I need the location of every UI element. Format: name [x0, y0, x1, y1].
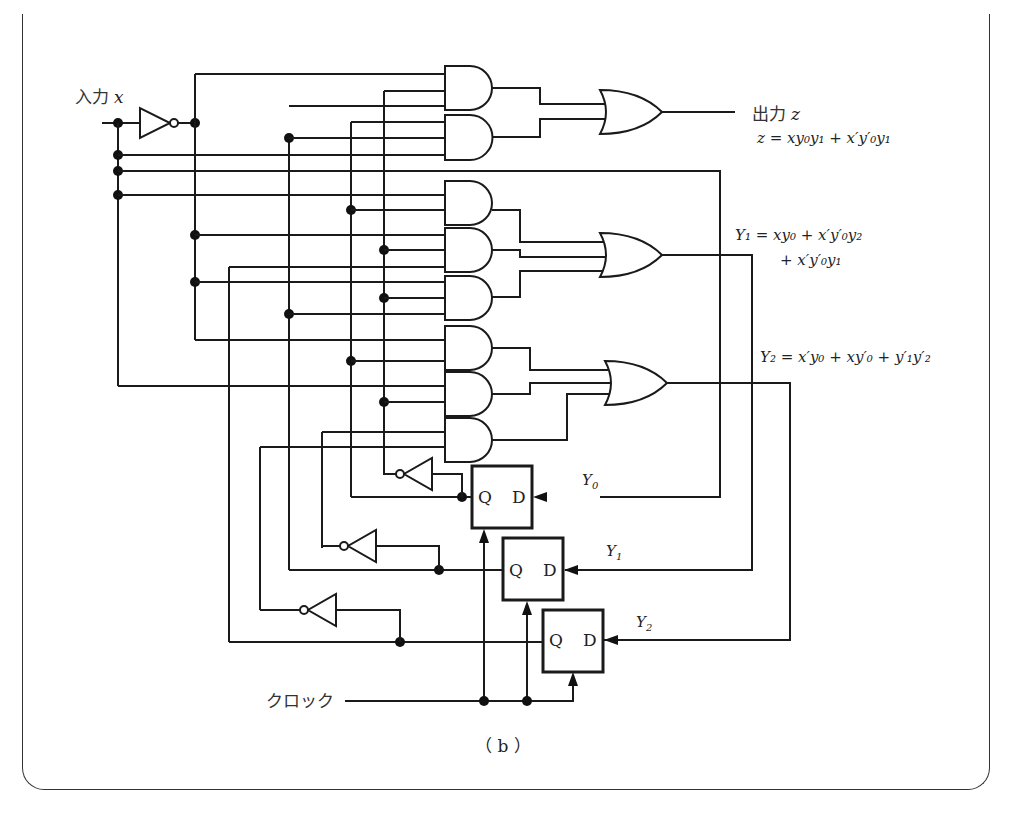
and-gate-y1-a [118, 181, 492, 225]
svg-text:Q: Q [549, 630, 563, 650]
svg-text:D: D [512, 487, 526, 507]
equation-y1-line1: Y₁ = xy₀ + x′y′₀y₂ [735, 226, 862, 244]
output-label: 出力 [752, 104, 786, 124]
and-gate-z1 [195, 66, 492, 110]
or-gate-z [600, 90, 662, 134]
and-gate-y2-c [260, 418, 492, 462]
and-gate-y2-a [195, 326, 492, 370]
or-gate-y1 [600, 233, 662, 277]
d-flipflop-y0: Q D Y0 [472, 466, 599, 528]
equation-y2: Y₂ = x′y₀ + xy′₀ + y′₁y′₂ [760, 348, 931, 366]
input-label: 入力 [75, 87, 109, 107]
equation-y1-line2: + x′y′₀y₁ [780, 251, 842, 269]
svg-text:D: D [583, 630, 597, 650]
input-var: x [114, 87, 124, 107]
input-x [102, 108, 200, 138]
figure-caption: （ b ） [475, 736, 531, 756]
svg-text:Y0: Y0 [582, 471, 599, 491]
equation-z: z = xy₀y₁ + x′y′₀y₁ [756, 129, 891, 147]
input-inverter-icon [140, 108, 170, 138]
svg-text:Y2: Y2 [636, 613, 652, 633]
sequential-circuit-diagram: Q D Y0 Q D Y1 Q D Y2 [0, 0, 1015, 821]
svg-text:Q: Q [509, 560, 523, 580]
inverter-y2-icon [308, 594, 336, 626]
svg-text:Y1: Y1 [606, 542, 622, 562]
svg-text:D: D [543, 560, 557, 580]
inverter-y1-icon [348, 530, 376, 562]
or-gate-y2 [605, 361, 667, 405]
svg-text:Q: Q [478, 487, 492, 507]
and-gate-y2-b [118, 372, 492, 416]
inverter-y0-icon [404, 458, 432, 490]
and-gate-y1-b [195, 228, 492, 272]
output-var: z [790, 104, 801, 124]
clock-label: クロック [266, 691, 334, 711]
and-gate-y1-c [195, 276, 492, 320]
